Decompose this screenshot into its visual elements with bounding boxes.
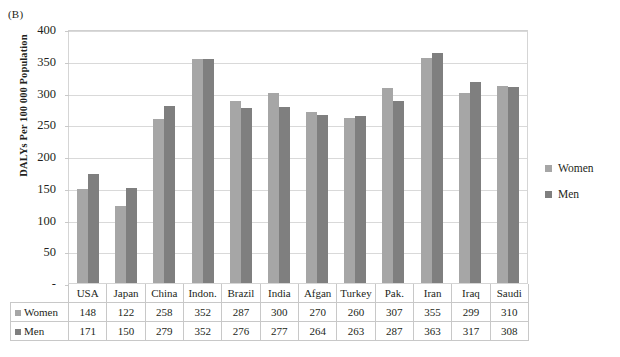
bar-group (489, 31, 527, 283)
bar-women-japan (115, 206, 126, 283)
bar-women-afgan (306, 112, 317, 283)
data-table: USAJapanChinaIndon.BrazilIndiaAfganTurke… (10, 284, 529, 341)
legend-item-women: Women (545, 162, 593, 174)
bar-women-india (268, 93, 279, 284)
bar-group (260, 31, 298, 283)
bar-women-pak (382, 88, 393, 283)
bar-men-indon (203, 59, 214, 283)
legend-swatch-icon (545, 191, 552, 198)
table-cell: 122 (107, 303, 145, 322)
bar-group (451, 31, 489, 283)
table-row: Women14812225835228730027026030735529931… (11, 303, 529, 322)
table-cell: 308 (490, 322, 528, 341)
bar-group (145, 31, 183, 283)
y-tick-label: 50 (44, 245, 57, 260)
table-cell: 287 (222, 303, 260, 322)
table-column-header: Japan (107, 284, 145, 303)
y-tick-label: 400 (37, 23, 56, 38)
bar-men-iraq (470, 82, 481, 283)
table-cell: 270 (298, 303, 336, 322)
table-row: Men171150279352276277264263287363317308 (11, 322, 529, 341)
table-cell: 310 (490, 303, 528, 322)
bar-men-turkey (355, 116, 366, 283)
bar-women-turkey (344, 118, 355, 283)
table-row-label-text: Women (24, 307, 58, 319)
table-row-label-men: Men (11, 322, 69, 341)
bar-women-iran (421, 58, 432, 283)
table-column-header: Turkey (337, 284, 375, 303)
bar-men-china (164, 106, 175, 283)
table-cell: 355 (413, 303, 451, 322)
table-column-header: Saudi (490, 284, 528, 303)
table-cell: 279 (145, 322, 183, 341)
y-tick-label: 100 (37, 213, 56, 228)
y-tick-label: 250 (37, 118, 56, 133)
table-column-header: Iran (413, 284, 451, 303)
bar-men-iran (432, 53, 443, 284)
bar-men-japan (126, 188, 137, 283)
legend-item-men: Men (545, 188, 593, 200)
bar-group (374, 31, 412, 283)
bar-group (184, 31, 222, 283)
table-cell: 300 (260, 303, 298, 322)
bar-group (69, 31, 107, 283)
table-column-header: USA (69, 284, 107, 303)
legend-swatch-icon (15, 329, 21, 335)
table-header-row: USAJapanChinaIndon.BrazilIndiaAfganTurke… (11, 284, 529, 303)
y-tick-label: 350 (37, 54, 56, 69)
table-cell: 352 (183, 322, 221, 341)
table-cell: 264 (298, 322, 336, 341)
table-column-header: India (260, 284, 298, 303)
table-column-header: Brazil (222, 284, 260, 303)
bar-group (336, 31, 374, 283)
table-cell: 258 (145, 303, 183, 322)
bar-women-saudi (497, 86, 508, 283)
chart-legend: WomenMen (545, 162, 593, 214)
table-row-label-women: Women (11, 303, 69, 322)
bar-group (413, 31, 451, 283)
bar-men-saudi (508, 87, 519, 283)
bar-women-iraq (459, 93, 470, 283)
bar-group (222, 31, 260, 283)
table-cell: 276 (222, 322, 260, 341)
y-axis-tick-labels: 40035030025020015010050- (0, 30, 62, 284)
table-cell: 277 (260, 322, 298, 341)
bar-men-india (279, 107, 290, 283)
table-corner-cell (11, 284, 69, 303)
bar-men-usa (88, 174, 99, 283)
bar-women-china (153, 119, 164, 283)
bar-group (298, 31, 336, 283)
table-cell: 148 (69, 303, 107, 322)
legend-swatch-icon (15, 310, 21, 316)
bar-women-usa (77, 189, 88, 283)
table-cell: 260 (337, 303, 375, 322)
legend-swatch-icon (545, 165, 552, 172)
table-cell: 317 (452, 322, 490, 341)
legend-label: Women (558, 162, 593, 174)
table-cell: 307 (375, 303, 413, 322)
table-cell: 150 (107, 322, 145, 341)
y-tick-label: 300 (37, 86, 56, 101)
y-tick-label: 200 (37, 150, 56, 165)
table-column-header: China (145, 284, 183, 303)
table-cell: 263 (337, 322, 375, 341)
table-cell: 171 (69, 322, 107, 341)
bar-groups (69, 31, 527, 283)
table-row-label-text: Men (24, 326, 44, 338)
table-cell: 363 (413, 322, 451, 341)
table-column-header: Pak. (375, 284, 413, 303)
bar-men-brazil (241, 108, 252, 283)
table-cell: 352 (183, 303, 221, 322)
plot-area (68, 30, 528, 284)
table-cell: 299 (452, 303, 490, 322)
table-column-header: Iraq (452, 284, 490, 303)
bar-women-indon (192, 59, 203, 283)
bar-group (107, 31, 145, 283)
y-tick-label: 150 (37, 181, 56, 196)
table-column-header: Afgan (298, 284, 336, 303)
bar-women-brazil (230, 101, 241, 283)
table-column-header: Indon. (183, 284, 221, 303)
table-cell: 287 (375, 322, 413, 341)
bar-men-pak (393, 101, 404, 283)
bar-men-afgan (317, 115, 328, 283)
